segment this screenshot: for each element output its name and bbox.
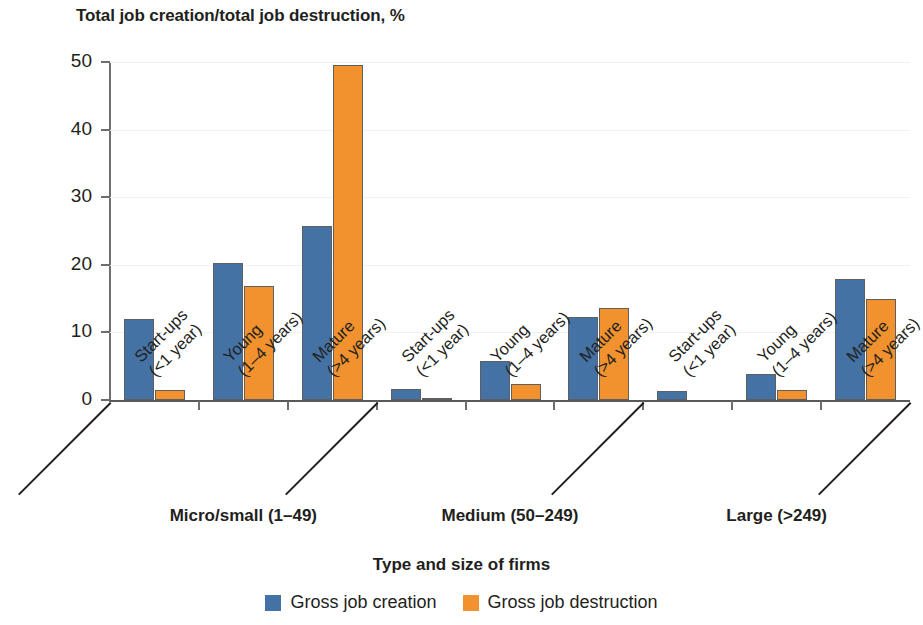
gridline <box>110 130 910 131</box>
x-axis-tick <box>465 401 467 410</box>
x-axis-line <box>109 400 910 402</box>
bar <box>777 390 807 400</box>
x-axis-tick <box>731 401 733 410</box>
x-axis-tick <box>287 401 289 410</box>
x-axis-tick <box>198 401 200 410</box>
bar <box>302 226 332 400</box>
group-separator <box>818 402 911 495</box>
bar <box>657 391 687 400</box>
y-axis-tick: 50 <box>101 61 110 63</box>
bar <box>422 398 452 400</box>
y-axis-tick-label: 50 <box>71 50 92 72</box>
bar <box>155 390 185 400</box>
y-axis-tick-label: 20 <box>71 253 92 275</box>
y-axis-tick: 30 <box>101 196 110 198</box>
legend-item[interactable]: Gross job creation <box>265 592 436 613</box>
group-label: Micro/small (1–49) <box>110 506 377 526</box>
chart-legend: Gross job creationGross job destruction <box>0 592 923 613</box>
group-label: Large (>249) <box>643 506 910 526</box>
y-axis-tick: 0 <box>101 399 110 401</box>
y-axis-line <box>109 62 111 401</box>
x-axis-tick <box>820 401 822 410</box>
group-separator <box>285 402 378 495</box>
legend-label: Gross job creation <box>290 592 436 613</box>
y-axis-tick-label: 30 <box>71 185 92 207</box>
x-axis-tick <box>553 401 555 410</box>
legend-swatch-icon <box>265 595 281 611</box>
x-axis-title: Type and size of firms <box>0 555 923 575</box>
bar <box>391 389 421 400</box>
y-axis-tick-label: 0 <box>81 388 92 410</box>
bar-chart: Total job creation/total job destruction… <box>0 0 923 625</box>
gridline <box>110 197 910 198</box>
legend-label: Gross job destruction <box>488 592 658 613</box>
bar <box>746 374 776 400</box>
y-axis-tick-label: 40 <box>71 118 92 140</box>
bar <box>511 384 541 400</box>
legend-swatch-icon <box>463 595 479 611</box>
group-separator <box>551 402 644 495</box>
chart-title: Total job creation/total job destruction… <box>76 6 405 26</box>
y-axis-tick: 10 <box>101 331 110 333</box>
legend-item[interactable]: Gross job destruction <box>463 592 658 613</box>
y-axis-tick-label: 10 <box>71 320 92 342</box>
y-axis-tick: 20 <box>101 264 110 266</box>
y-axis-tick: 40 <box>101 129 110 131</box>
group-separator <box>18 402 111 495</box>
group-label: Medium (50–249) <box>377 506 644 526</box>
gridline <box>110 62 910 63</box>
